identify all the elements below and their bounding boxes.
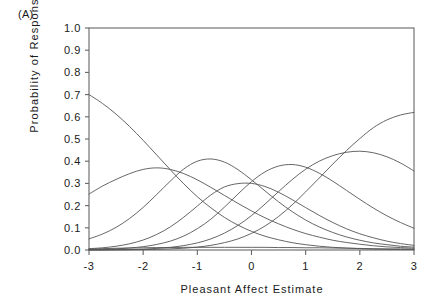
x-tick-label: 2 xyxy=(356,260,363,272)
x-tick-label: -1 xyxy=(192,260,203,272)
plot-frame xyxy=(89,28,414,250)
x-tick-label: 3 xyxy=(411,260,418,272)
y-tick-label: 0.0 xyxy=(64,244,81,256)
y-tick-label: 0.3 xyxy=(64,177,81,189)
chart-plot-area: 0.00.10.20.30.40.50.60.70.80.91.0-3-2-10… xyxy=(0,0,437,307)
y-tick-label: 0.9 xyxy=(64,44,81,56)
y-tick-label: 0.8 xyxy=(64,66,81,78)
x-tick-label: 1 xyxy=(302,260,309,272)
x-axis-title: Pleasant Affect Estimate xyxy=(89,283,415,295)
axis-layer xyxy=(85,28,414,255)
x-tick-label: -2 xyxy=(138,260,149,272)
x-tick-label: 0 xyxy=(248,260,255,272)
y-tick-label: 0.4 xyxy=(64,155,81,167)
y-tick-label: 0.6 xyxy=(64,111,81,123)
y-tick-label: 0.5 xyxy=(64,133,81,145)
x-tick-label: -3 xyxy=(84,260,95,272)
y-tick-label: 0.7 xyxy=(64,89,81,101)
y-tick-label: 0.1 xyxy=(64,222,81,234)
y-tick-label: 1.0 xyxy=(64,22,81,34)
y-tick-label: 0.2 xyxy=(64,200,81,212)
figure-panel-a: (A) Probability of Response 0.00.10.20.3… xyxy=(0,0,437,307)
